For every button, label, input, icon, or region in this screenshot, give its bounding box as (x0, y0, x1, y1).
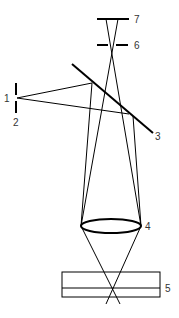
ray-source-lower (17, 98, 129, 114)
label-6: 6 (134, 40, 140, 51)
label-2: 2 (13, 117, 19, 128)
beam-splitter (72, 64, 153, 133)
ray-source-upper (17, 83, 92, 98)
ray-return-left (81, 19, 118, 226)
label-7: 7 (134, 14, 140, 25)
optical-diagram: 1 2 3 4 5 6 7 (0, 0, 179, 318)
ray-down-right (133, 116, 141, 226)
ray-focus-right (106, 226, 141, 304)
label-3: 3 (155, 131, 161, 142)
label-1: 1 (4, 93, 10, 104)
label-4: 4 (145, 221, 151, 232)
objective-lens (81, 219, 141, 233)
label-5: 5 (165, 283, 171, 294)
ray-down-left (81, 83, 92, 226)
ray-focus-left (81, 226, 120, 304)
